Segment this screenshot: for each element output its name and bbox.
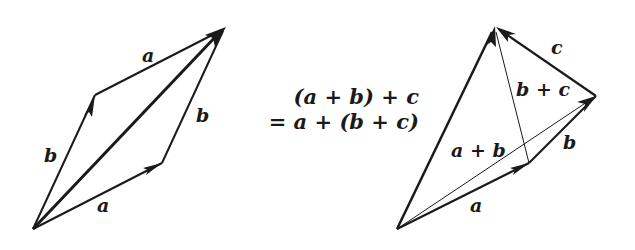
label-b: b (563, 131, 576, 153)
arrowhead-b-left (84, 95, 95, 117)
vector-sum-diagonal (33, 33, 219, 229)
label-a-top: a (142, 44, 154, 66)
label-a: a (470, 194, 482, 216)
right-associativity-figure: c b + c b a + b a (397, 26, 596, 229)
arrowhead-a (510, 163, 529, 175)
label-b-right: b (196, 104, 209, 126)
arrowhead-a-bottom (143, 163, 162, 175)
arrowhead-a-plus-b (577, 96, 596, 112)
vector-a (397, 163, 529, 229)
associativity-equation: (a + b) + c = a + (b + c) (269, 84, 420, 134)
vector-a-plus-b (397, 100, 590, 229)
label-b-plus-c: b + c (516, 78, 570, 100)
vector-a-top (95, 30, 222, 95)
label-c: c (551, 36, 563, 58)
label-a-plus-b: a + b (451, 139, 506, 161)
arrowhead-total-sum (485, 26, 496, 47)
label-a-bottom: a (97, 194, 109, 216)
vector-b-left (33, 95, 95, 229)
equation-line-1: (a + b) + c (294, 84, 420, 109)
vector-b-right (162, 31, 223, 163)
left-parallelogram: a b b a (33, 27, 226, 229)
label-b-left: b (44, 144, 57, 166)
equation-line-2: = a + (b + c) (269, 109, 419, 134)
vector-addition-diagram: a b b a (a + b) + c = a + (b + c) c b + … (0, 0, 635, 250)
